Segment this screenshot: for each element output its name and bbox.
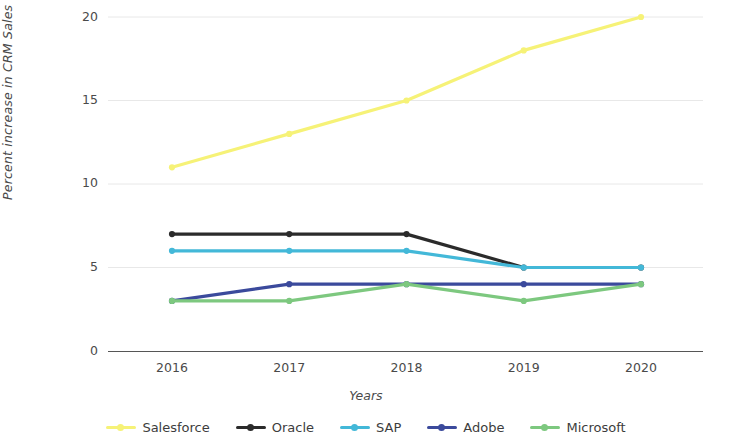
data-point <box>169 164 175 170</box>
series-line-salesforce <box>172 17 641 167</box>
legend-item-salesforce[interactable]: Salesforce <box>106 420 209 435</box>
legend-item-microsoft[interactable]: Microsoft <box>530 420 625 435</box>
data-point <box>286 248 292 254</box>
legend-swatch-icon <box>427 422 457 434</box>
x-axis-title: Years <box>0 388 732 403</box>
x-tick-2019: 2019 <box>508 360 540 375</box>
plot-area <box>108 8 703 352</box>
y-tick-15: 15 <box>58 94 98 107</box>
y-tick-0: 0 <box>58 345 98 358</box>
y-axis-title: Percent increase in CRM Sales <box>0 0 22 82</box>
gridlines <box>108 17 703 268</box>
data-point <box>521 47 527 53</box>
data-point <box>286 298 292 304</box>
legend-item-sap[interactable]: SAP <box>340 420 401 435</box>
data-point <box>638 14 644 20</box>
data-point <box>286 131 292 137</box>
data-point <box>521 281 527 287</box>
legend-label: Oracle <box>272 420 314 435</box>
y-axis-title-text: Percent increase in CRM Sales <box>0 0 15 200</box>
legend-label: Adobe <box>463 420 504 435</box>
data-point <box>521 264 527 270</box>
data-point <box>638 281 644 287</box>
series-salesforce <box>169 14 644 171</box>
data-point <box>286 281 292 287</box>
line-chart: Percent increase in CRM Sales 20 15 10 5… <box>0 0 732 441</box>
data-point <box>638 264 644 270</box>
legend-swatch-icon <box>106 422 136 434</box>
data-point <box>403 281 409 287</box>
legend-swatch-icon <box>530 422 560 434</box>
x-axis-tick-labels: 20162017201820192020 <box>108 360 703 380</box>
y-axis-tick-labels: 20 15 10 5 0 <box>58 0 98 441</box>
data-point <box>286 231 292 237</box>
data-point <box>521 298 527 304</box>
x-tick-2016: 2016 <box>156 360 188 375</box>
x-tick-2017: 2017 <box>273 360 305 375</box>
data-point <box>169 248 175 254</box>
data-point <box>169 298 175 304</box>
y-tick-5: 5 <box>58 261 98 274</box>
series-layer <box>169 14 644 304</box>
legend-item-adobe[interactable]: Adobe <box>427 420 504 435</box>
legend-item-oracle[interactable]: Oracle <box>236 420 314 435</box>
x-tick-2018: 2018 <box>391 360 423 375</box>
data-point <box>403 97 409 103</box>
data-point <box>403 248 409 254</box>
plot-svg <box>108 8 703 352</box>
y-tick-10: 10 <box>58 177 98 190</box>
x-axis-line <box>108 351 703 352</box>
data-point <box>403 231 409 237</box>
x-tick-2020: 2020 <box>625 360 657 375</box>
legend-label: Salesforce <box>142 420 209 435</box>
chart-legend: SalesforceOracleSAPAdobeMicrosoft <box>0 420 732 435</box>
y-tick-20: 20 <box>58 11 98 24</box>
legend-label: Microsoft <box>566 420 625 435</box>
legend-label: SAP <box>376 420 401 435</box>
legend-swatch-icon <box>236 422 266 434</box>
data-point <box>169 231 175 237</box>
legend-swatch-icon <box>340 422 370 434</box>
